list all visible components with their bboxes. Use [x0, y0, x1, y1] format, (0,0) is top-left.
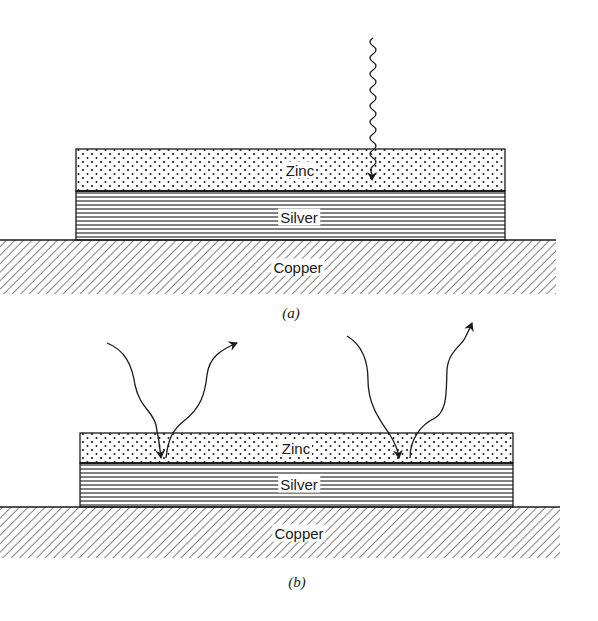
- copper-label-b: Copper: [272, 525, 325, 542]
- silver-label-b: Silver: [278, 476, 320, 493]
- caption-b: (b): [288, 574, 306, 591]
- caption-a: (a): [282, 305, 300, 322]
- copper-label-a: Copper: [271, 259, 324, 276]
- silver-label-a: Silver: [278, 209, 320, 226]
- zinc-label-b: Zinc: [280, 440, 312, 457]
- panel-a: [0, 38, 556, 294]
- zinc-label-a: Zinc: [284, 162, 316, 179]
